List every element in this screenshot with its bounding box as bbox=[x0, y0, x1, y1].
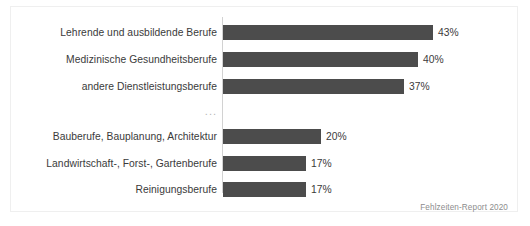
bar-row: Landwirtschaft-, Forst-, Gartenberufe 17… bbox=[0, 155, 530, 172]
chart-figure: Lehrende und ausbildende Berufe 43% Medi… bbox=[0, 0, 530, 226]
bar-value-label: 40% bbox=[423, 51, 444, 68]
bar bbox=[223, 79, 404, 94]
bar-value-label: 37% bbox=[409, 78, 430, 95]
category-label: Landwirtschaft-, Forst-, Gartenberufe bbox=[20, 155, 217, 172]
chart-plot-area: Lehrende und ausbildende Berufe 43% Medi… bbox=[0, 0, 530, 226]
bar bbox=[223, 182, 306, 197]
bar bbox=[223, 25, 433, 40]
bar bbox=[223, 52, 418, 67]
category-label: Lehrende und ausbildende Berufe bbox=[20, 24, 217, 41]
category-label: Bauberufe, Bauplanung, Architektur bbox=[20, 128, 217, 145]
source-note: Fehlzeiten-Report 2020 bbox=[420, 203, 508, 212]
bar-row: Lehrende und ausbildende Berufe 43% bbox=[0, 24, 530, 41]
bar-value-label: 17% bbox=[311, 181, 332, 198]
bar bbox=[223, 129, 321, 144]
category-label: Reinigungsberufe bbox=[20, 181, 217, 198]
bar-value-label: 43% bbox=[438, 24, 459, 41]
bar-row: Medizinische Gesundheitsberufe 40% bbox=[0, 51, 530, 68]
bar-row: andere Dienstleistungsberufe 37% bbox=[0, 78, 530, 95]
bar-row: Bauberufe, Bauplanung, Architektur 20% bbox=[0, 128, 530, 145]
bar bbox=[223, 156, 306, 171]
axis-break-row: ... bbox=[0, 104, 530, 121]
category-label: andere Dienstleistungsberufe bbox=[20, 78, 217, 95]
bar-row: Reinigungsberufe 17% bbox=[0, 181, 530, 198]
bar-value-label: 20% bbox=[326, 128, 347, 145]
bar-value-label: 17% bbox=[311, 155, 332, 172]
ellipsis-icon: ... bbox=[20, 104, 217, 121]
category-label: Medizinische Gesundheitsberufe bbox=[20, 51, 217, 68]
